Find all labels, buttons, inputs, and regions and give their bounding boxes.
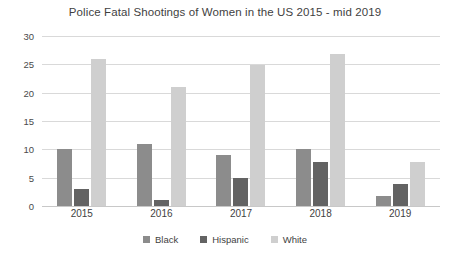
legend-swatch-icon [271,236,278,243]
bar-group-2015 [42,36,122,206]
legend-item-white[interactable]: White [271,234,307,245]
bar-hispanic-2015 [74,189,89,206]
y-tick-label: 0 [29,201,34,212]
x-tick-label-2018: 2018 [309,208,331,219]
x-axis: 20152016201720182019 [42,208,440,226]
bar-group-2016 [122,36,202,206]
bar-white-2016 [171,87,186,206]
bar-black-2016 [137,144,152,206]
bar-white-2017 [250,65,265,206]
bar-group-2017 [201,36,281,206]
x-tick-label-2019: 2019 [389,208,411,219]
chart-legend: BlackHispanicWhite [0,234,450,245]
y-tick-label: 20 [23,87,34,98]
bar-white-2015 [91,59,106,206]
legend-item-black[interactable]: Black [143,234,178,245]
bar-hispanic-2018 [313,162,328,206]
bar-group-2019 [360,36,440,206]
bar-hispanic-2017 [233,178,248,206]
bar-black-2017 [216,155,231,206]
y-axis: 051015202530 [0,36,42,206]
x-tick-label-2015: 2015 [71,208,93,219]
legend-label: Black [155,234,178,245]
y-tick-label: 30 [23,31,34,42]
legend-swatch-icon [143,236,150,243]
y-tick-label: 5 [29,172,34,183]
y-tick-label: 15 [23,116,34,127]
legend-swatch-icon [200,236,207,243]
bar-black-2018 [296,149,311,206]
plot-area [42,36,440,206]
gridline-0 [42,206,440,207]
x-tick-label-2017: 2017 [230,208,252,219]
bar-black-2015 [57,149,72,206]
y-tick-label: 10 [23,144,34,155]
legend-item-hispanic[interactable]: Hispanic [200,234,248,245]
bar-group-2018 [281,36,361,206]
bar-hispanic-2016 [154,200,169,206]
legend-label: Hispanic [212,234,248,245]
legend-label: White [283,234,307,245]
bar-black-2019 [376,196,391,206]
bar-white-2019 [410,162,425,206]
bar-white-2018 [330,54,345,206]
y-tick-label: 25 [23,59,34,70]
bar-hispanic-2019 [393,184,408,206]
x-tick-label-2016: 2016 [150,208,172,219]
chart-title: Police Fatal Shootings of Women in the U… [0,6,450,18]
chart-container: Police Fatal Shootings of Women in the U… [0,0,450,259]
